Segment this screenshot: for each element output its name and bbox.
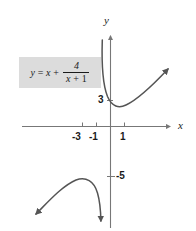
x-tick-label-1: 1 [120,131,126,142]
equation-term1: x [46,68,51,78]
curve-upper-branch [102,40,168,107]
y-tick-label-minus5: -5 [116,170,125,181]
fraction-numerator: 4 [72,61,81,72]
fraction-denominator-const: 1 [82,73,87,84]
x-tick-label-minus1: -1 [89,131,98,142]
x-axis-label: x [178,119,183,131]
equation-box: y = x + 4 x + 1 [19,57,101,88]
fraction-denominator-plus: + [73,73,79,84]
curve-lower-branch [36,179,101,221]
equation-text: y = x + 4 x + 1 [31,61,90,84]
fraction-denominator-variable: x [66,73,71,84]
equation-lhs: y [31,68,36,78]
figure-container: y = x + 4 x + 1 y x -3 -1 1 3 -5 [0,0,196,231]
equation-plus: + [53,68,59,78]
equation-equals: = [38,68,44,78]
y-axis-label: y [104,14,109,26]
equation-fraction: 4 x + 1 [63,61,89,84]
fraction-denominator: x + 1 [64,73,89,84]
y-tick-label-3: 3 [98,94,104,105]
x-tick-label-minus3: -3 [72,131,81,142]
graph-canvas [0,0,196,231]
